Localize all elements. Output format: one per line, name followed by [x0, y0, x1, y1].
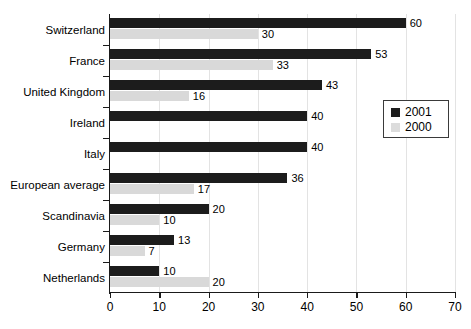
- legend-swatch-2001: [391, 108, 400, 117]
- plot-area: 6030533343164040361720101371020: [110, 14, 455, 293]
- y-tick-2: [103, 76, 110, 77]
- y-tick-3: [103, 107, 110, 108]
- bar-value-european-average-2001: 36: [291, 173, 303, 184]
- x-tick-60: [406, 292, 407, 298]
- bar-ireland-2001: [110, 111, 307, 121]
- category-label-scandinavia: Scandinavia: [42, 210, 105, 222]
- bar-switzerland-2000: [110, 29, 258, 39]
- bar-value-scandinavia-2000: 10: [163, 215, 175, 226]
- gridline-60: [406, 14, 407, 293]
- bar-value-united-kingdom-2000: 16: [193, 91, 205, 102]
- bar-value-united-kingdom-2001: 43: [326, 80, 338, 91]
- bar-value-switzerland-2001: 60: [410, 18, 422, 29]
- x-tick-0: [110, 292, 111, 298]
- x-tick-label-60: 60: [391, 301, 421, 314]
- gridline-70: [455, 14, 456, 293]
- x-tick-label-50: 50: [341, 301, 371, 314]
- bar-value-france-2000: 33: [277, 60, 289, 71]
- bar-germany-2000: [110, 246, 145, 256]
- x-tick-label-0: 0: [95, 301, 125, 314]
- y-tick-1: [103, 45, 110, 46]
- bar-value-netherlands-2000: 20: [213, 277, 225, 288]
- bar-italy-2001: [110, 142, 307, 152]
- x-tick-30: [258, 292, 259, 298]
- x-axis-line: [109, 292, 456, 293]
- bar-united-kingdom-2001: [110, 80, 322, 90]
- category-label-france: France: [69, 55, 105, 67]
- bar-switzerland-2001: [110, 18, 406, 28]
- legend-swatch-2000: [391, 123, 400, 132]
- category-label-netherlands: Netherlands: [43, 272, 105, 284]
- y-tick-8: [103, 262, 110, 263]
- bar-european-average-2001: [110, 173, 287, 183]
- bar-value-netherlands-2001: 10: [163, 266, 175, 277]
- bar-european-average-2000: [110, 184, 194, 194]
- x-tick-10: [159, 292, 160, 298]
- bar-united-kingdom-2000: [110, 91, 189, 101]
- x-tick-label-30: 30: [243, 301, 273, 314]
- bar-scandinavia-2001: [110, 204, 209, 214]
- legend-item-2001: 2001: [391, 105, 432, 119]
- bar-netherlands-2000: [110, 277, 209, 287]
- bar-value-scandinavia-2001: 20: [213, 204, 225, 215]
- category-label-united-kingdom: United Kingdom: [23, 86, 105, 98]
- category-label-switzerland: Switzerland: [46, 24, 105, 36]
- category-label-germany: Germany: [58, 241, 105, 253]
- y-axis-line: [109, 14, 110, 294]
- bar-value-european-average-2000: 17: [198, 184, 210, 195]
- bar-value-germany-2000: 7: [149, 246, 155, 257]
- bar-value-ireland-2001: 40: [311, 111, 323, 122]
- bar-scandinavia-2000: [110, 215, 159, 225]
- bar-france-2001: [110, 49, 371, 59]
- legend-label-2000: 2000: [405, 121, 432, 133]
- bar-value-germany-2001: 13: [178, 235, 190, 246]
- y-tick-5: [103, 169, 110, 170]
- bar-germany-2001: [110, 235, 174, 245]
- x-tick-50: [356, 292, 357, 298]
- bar-france-2000: [110, 60, 273, 70]
- x-tick-label-10: 10: [144, 301, 174, 314]
- x-tick-70: [455, 292, 456, 298]
- category-label-ireland: Ireland: [70, 117, 105, 129]
- legend-label-2001: 2001: [405, 106, 432, 118]
- x-tick-label-20: 20: [194, 301, 224, 314]
- x-tick-20: [209, 292, 210, 298]
- chart-legend: 2001 2000: [383, 100, 449, 138]
- bar-value-switzerland-2000: 30: [262, 29, 274, 40]
- bar-netherlands-2001: [110, 266, 159, 276]
- bar-value-italy-2001: 40: [311, 142, 323, 153]
- bar-chart: 6030533343164040361720101371020 Switzerl…: [0, 0, 471, 329]
- y-tick-6: [103, 200, 110, 201]
- x-tick-40: [307, 292, 308, 298]
- y-tick-7: [103, 231, 110, 232]
- bar-value-france-2001: 53: [375, 49, 387, 60]
- category-label-european-average: European average: [10, 179, 105, 191]
- y-tick-4: [103, 138, 110, 139]
- category-label-italy: Italy: [84, 148, 105, 160]
- x-tick-label-70: 70: [440, 301, 470, 314]
- x-tick-label-40: 40: [292, 301, 322, 314]
- legend-item-2000: 2000: [391, 120, 432, 134]
